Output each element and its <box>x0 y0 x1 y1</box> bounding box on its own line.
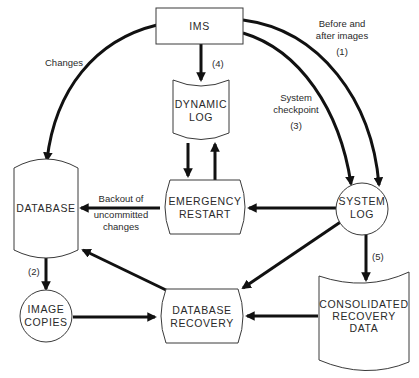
edge-label-step-2: (2) <box>28 266 40 277</box>
node-system-log-label-line2: LOG <box>350 208 374 220</box>
edge-label-changes: Changes <box>45 57 83 68</box>
edge-label-step-5: (5) <box>372 251 384 262</box>
edge-label-step-1: (1) <box>336 46 348 57</box>
node-system-log-label-line1: SYSTEM <box>339 195 386 207</box>
node-dynamic-log-label-line2: LOG <box>189 111 213 123</box>
node-consolidated-label-line2: RECOVERY <box>332 310 396 322</box>
node-database-recovery-label-line2: RECOVERY <box>170 317 234 329</box>
edge-label-before-after-line1: Before and <box>319 18 365 29</box>
node-ims: IMS <box>156 8 243 44</box>
node-consolidated-label-line3: DATA <box>350 322 379 334</box>
node-system-log: SYSTEM LOG <box>336 183 388 235</box>
node-database: DATABASE <box>14 159 78 258</box>
edge-label-checkpoint-line2: checkpoint <box>273 104 319 115</box>
edge-label-before-after-line2: after images <box>316 30 369 41</box>
node-emergency-restart-label-line1: EMERGENCY <box>168 195 241 207</box>
node-ims-label: IMS <box>189 20 209 32</box>
node-emergency-restart-label-line2: RESTART <box>179 208 231 220</box>
edge-label-step-3: (3) <box>290 120 302 131</box>
edge-label-step-4: (4) <box>212 58 224 69</box>
node-consolidated-label-line1: CONSOLIDATED <box>319 298 408 310</box>
node-image-copies-label-line2: COPIES <box>24 316 67 328</box>
edge-label-backout-line1: Backout of <box>99 193 144 204</box>
node-dynamic-log-label-line1: DYNAMIC <box>175 98 228 110</box>
node-dynamic-log: DYNAMIC LOG <box>173 80 229 140</box>
edge-label-checkpoint-line1: System <box>280 92 312 103</box>
node-emergency-restart: EMERGENCY RESTART <box>165 180 245 234</box>
edge-ims-to-database <box>47 25 157 160</box>
node-image-copies: IMAGE COPIES <box>20 290 72 342</box>
ims-recovery-diagram: IMS DYNAMIC LOG EMERGENCY RESTART DATABA… <box>0 0 419 378</box>
node-consolidated-recovery-data: CONSOLIDATED RECOVERY DATA <box>319 272 409 371</box>
node-database-label: DATABASE <box>16 202 75 214</box>
node-image-copies-label-line1: IMAGE <box>28 303 65 315</box>
edge-label-backout-line2: uncommitted <box>94 209 148 220</box>
edge-label-backout-line3: changes <box>103 221 139 232</box>
edge-system-log-to-database-recovery <box>243 221 342 288</box>
edge-database-recovery-to-database <box>83 250 166 290</box>
node-database-recovery-label-line1: DATABASE <box>172 304 231 316</box>
node-database-recovery: DATABASE RECOVERY <box>161 289 243 343</box>
